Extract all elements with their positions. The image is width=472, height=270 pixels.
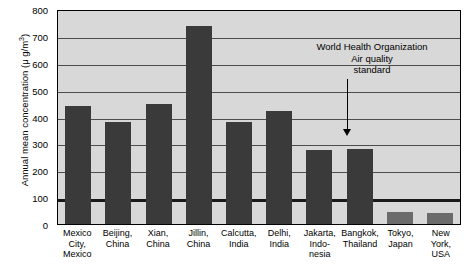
annotation-arrow-line — [347, 79, 348, 131]
who-standard-annotation: World Health OrganizationAir qualitystan… — [286, 41, 458, 76]
bar — [266, 111, 292, 224]
x-tick-label-line: Jakarta, — [299, 228, 339, 239]
x-tick-label-line: Bangkok, — [340, 228, 380, 239]
x-tick-label-line: Xian, — [138, 228, 178, 239]
annotation-line-0: World Health Organization — [286, 41, 458, 53]
x-tick-label-line: Delhi, — [259, 228, 299, 239]
x-tick-label-line: Thailand — [340, 239, 380, 250]
x-tick-label: NewYork,USA — [421, 228, 461, 260]
x-tick-label-line: Mexico — [57, 249, 97, 260]
bar — [65, 106, 91, 224]
x-tick-label: Tokyo,Japan — [380, 228, 420, 260]
y-tick-500: 500 — [32, 85, 48, 96]
bar — [186, 26, 212, 224]
bar-chart-figure: Annual mean concentration (μ g/m3) 01002… — [0, 0, 472, 270]
x-tick-label-line: USA — [421, 249, 461, 260]
x-tick-label-line: China — [138, 239, 178, 250]
bar-cell — [179, 11, 219, 224]
annotation-line-2: standard — [286, 64, 458, 76]
x-tick-label-line: nesia — [299, 249, 339, 260]
x-tick-label: Bangkok,Thailand — [340, 228, 380, 260]
x-tick-label: Delhi,India — [259, 228, 299, 260]
x-axis-tick-labels: MexicoCity,MexicoBeijing,ChinaXian,China… — [57, 228, 461, 260]
bar — [105, 122, 131, 224]
x-tick-label-line: India — [259, 239, 299, 250]
x-tick-label-line: New — [421, 228, 461, 239]
annotation-arrow-head — [343, 129, 351, 136]
y-tick-600: 600 — [32, 58, 48, 69]
y-tick-300: 300 — [32, 139, 48, 150]
x-tick-label: MexicoCity,Mexico — [57, 228, 97, 260]
x-tick-label-line: Jillin, — [178, 228, 218, 239]
x-tick-label-line: Indo- — [299, 239, 339, 250]
x-tick-label: Calcutta,India — [219, 228, 259, 260]
x-tick-label-line: Tokyo, — [380, 228, 420, 239]
bar — [306, 150, 332, 224]
y-tick-800: 800 — [32, 5, 48, 16]
annotation-line-1: Air quality — [286, 53, 458, 65]
x-tick-label-line: Calcutta, — [219, 228, 259, 239]
bar — [146, 104, 172, 224]
x-tick-label: Jillin,China — [178, 228, 218, 260]
bar — [387, 212, 413, 224]
x-tick-label-line: City, — [57, 239, 97, 250]
bar-cell — [58, 11, 98, 224]
x-tick-label-line: China — [97, 239, 137, 250]
y-tick-400: 400 — [32, 112, 48, 123]
x-tick-label: Xian,China — [138, 228, 178, 260]
bar — [347, 149, 373, 224]
x-tick-label-line: Beijing, — [97, 228, 137, 239]
y-tick-200: 200 — [32, 166, 48, 177]
x-tick-label: Beijing,China — [97, 228, 137, 260]
bar-cell — [98, 11, 138, 224]
y-tick-700: 700 — [32, 31, 48, 42]
x-tick-label-line: York, — [421, 239, 461, 250]
bar — [226, 122, 252, 224]
bar-cell — [138, 11, 178, 224]
x-tick-label-line: China — [178, 239, 218, 250]
x-tick-label-line: India — [219, 239, 259, 250]
y-tick-100: 100 — [32, 193, 48, 204]
y-axis-tick-labels: 0100200300400500600700800 — [0, 0, 52, 270]
x-tick-label-line: Japan — [380, 239, 420, 250]
plot-area: World Health OrganizationAir qualitystan… — [57, 10, 461, 225]
bar-cell — [219, 11, 259, 224]
x-tick-label: Jakarta,Indo-nesia — [299, 228, 339, 260]
x-tick-label-line: Mexico — [57, 228, 97, 239]
y-tick-0: 0 — [43, 220, 48, 231]
bar — [427, 213, 453, 224]
